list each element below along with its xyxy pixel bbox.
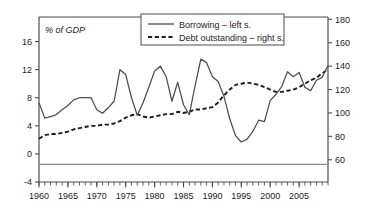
- chart-legend: Borrowing – left s. Debt outstanding – r…: [141, 14, 284, 45]
- y-left-tick-label: 16: [22, 37, 32, 47]
- y-left-tick-label: 8: [27, 93, 32, 103]
- x-tick-label: 1965: [58, 191, 78, 201]
- chart-container: 1960196519701975198019851990199520002005…: [0, 0, 368, 216]
- x-tick-label: 1990: [202, 191, 222, 201]
- y-right-tick-label: 60: [335, 155, 345, 165]
- y-left-tick-label: 12: [22, 65, 32, 75]
- x-tick-label: 1985: [173, 191, 193, 201]
- y-right-tick-label: 120: [335, 85, 350, 95]
- legend-label-borrowing: Borrowing – left s.: [179, 20, 251, 30]
- x-tick-label: 1995: [231, 191, 251, 201]
- y-right-tick-label: 140: [335, 61, 350, 71]
- x-tick-label: 1980: [145, 191, 165, 201]
- y-right-tick-label: 160: [335, 38, 350, 48]
- x-tick-label: 2000: [260, 191, 280, 201]
- y-right-tick-label: 100: [335, 108, 350, 118]
- x-tick-label: 1970: [87, 191, 107, 201]
- y-axis-unit-label: % of GDP: [45, 25, 85, 35]
- y-left-tick-label: 4: [27, 121, 32, 131]
- gdp-borrowing-debt-chart: 1960196519701975198019851990199520002005…: [0, 0, 368, 216]
- legend-label-debt: Debt outstanding – right s.: [179, 33, 284, 43]
- x-tick-label: 1960: [29, 191, 49, 201]
- y-right-tick-label: 80: [335, 132, 345, 142]
- x-tick-label: 1975: [116, 191, 136, 201]
- x-tick-label: 2005: [289, 191, 309, 201]
- y-left-tick-label: 0: [27, 149, 32, 159]
- y-left-tick-label: -4: [24, 177, 32, 187]
- y-right-tick-label: 180: [335, 15, 350, 25]
